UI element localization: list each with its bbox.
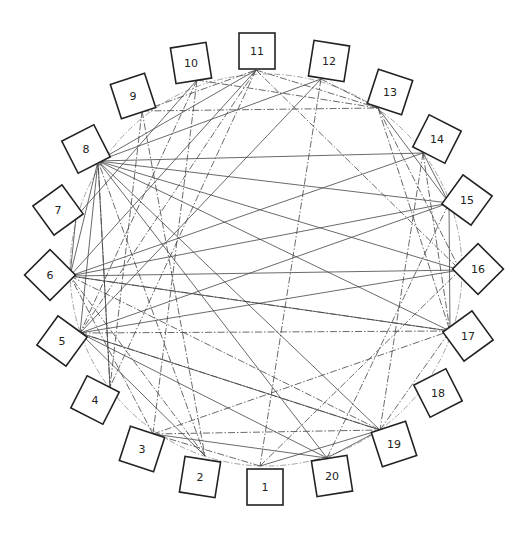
edge-3-17 [153,331,450,434]
node-6: 6 [25,250,76,301]
edge-9-2 [142,111,205,456]
node-16: 16 [453,244,504,295]
node-label: 9 [130,90,137,103]
edge-11-16 [256,70,460,270]
node-label: 14 [430,133,444,146]
node-label: 13 [383,86,397,99]
edge-8-19 [98,161,380,430]
node-5: 5 [37,316,87,366]
edges [70,70,460,466]
node-label: 1 [262,481,269,494]
edge-3-20 [153,434,327,458]
node-1: 1 [247,469,283,505]
network-diagram: 1234567891011121314151617181920 [0,0,527,541]
node-4: 4 [71,376,119,424]
edge-8-14 [98,153,423,161]
edge-10-5 [80,80,197,333]
node-label: 10 [184,57,198,70]
edge-8-16 [98,161,460,270]
edge-11-4 [110,70,256,387]
node-label: 19 [387,438,401,451]
edge-20-15 [327,203,449,458]
node-11: 11 [239,33,275,69]
node-label: 12 [322,55,336,68]
edge-10-13 [197,80,378,108]
node-label: 8 [83,143,90,156]
node-18: 18 [414,369,462,417]
edge-6-19 [70,276,380,430]
node-13: 13 [367,69,412,114]
node-14: 14 [413,115,461,163]
edge-8-15 [98,161,449,203]
node-12: 12 [308,40,349,81]
edge-15-17 [449,203,450,331]
node-label: 2 [197,471,204,484]
edge-11-5 [80,70,256,333]
node-label: 3 [139,443,146,456]
node-label: 16 [471,263,485,276]
node-9: 9 [110,73,155,118]
node-label: 7 [55,204,62,217]
circle-guide [70,74,462,466]
edge-6-16 [70,270,460,276]
node-10: 10 [170,42,211,83]
node-17: 17 [443,311,493,361]
edge-9-13 [142,108,378,111]
edge-1-16 [260,270,460,466]
edge-5-15 [80,203,449,333]
node-label: 20 [325,470,339,483]
edge-8-5 [80,161,98,333]
node-label: 4 [92,394,99,407]
node-20: 20 [311,455,352,496]
edge-6-14 [70,153,423,276]
node-label: 18 [431,387,445,400]
node-7: 7 [33,185,83,235]
node-label: 15 [460,194,474,207]
edge-9-4 [110,111,142,387]
node-label: 6 [47,269,54,282]
node-label: 11 [250,45,264,58]
nodes: 1234567891011121314151617181920 [25,33,504,505]
node-2: 2 [179,456,220,497]
edge-6-7 [70,217,76,276]
node-label: 5 [59,335,66,348]
node-label: 17 [461,330,475,343]
